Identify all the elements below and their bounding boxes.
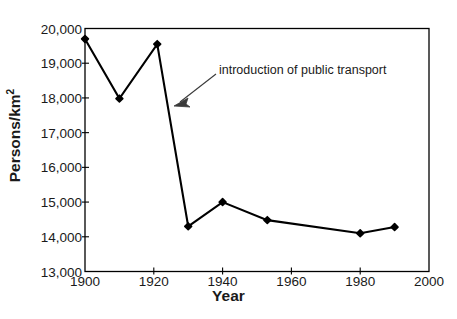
annotation-arrow bbox=[174, 74, 216, 107]
axis-ticks bbox=[82, 63, 360, 274]
data-point-marker bbox=[264, 217, 271, 224]
plot-area bbox=[0, 0, 457, 319]
x-axis-label: Year bbox=[0, 287, 457, 305]
data-point-marker bbox=[357, 230, 364, 237]
data-point-marker bbox=[391, 224, 398, 231]
annotation-label: introduction of public transport bbox=[219, 63, 386, 77]
chart-figure: Persons/km2 13,00014,00015,00016,00017,0… bbox=[0, 0, 457, 319]
